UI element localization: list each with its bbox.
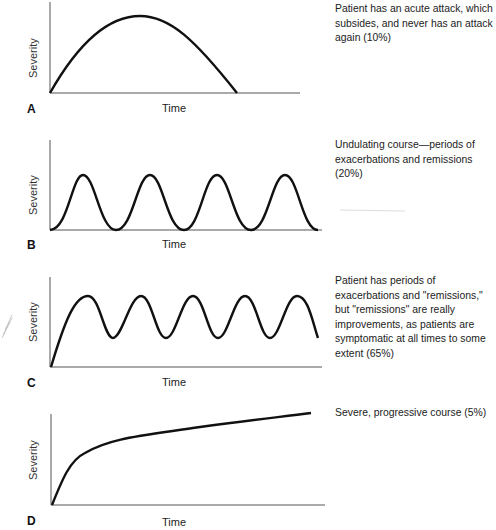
x-axis-label: Time — [162, 238, 186, 250]
chart-b — [50, 140, 322, 230]
chart-a — [50, 2, 300, 93]
panel-letter: D — [27, 514, 36, 528]
y-axis-label: Severity — [27, 302, 39, 342]
panel-letter: B — [27, 238, 36, 252]
x-axis-label: Time — [162, 376, 186, 388]
y-axis-label: Severity — [27, 440, 39, 480]
curve-d — [52, 413, 311, 505]
chart-d — [51, 413, 325, 505]
scan-artifact — [340, 210, 405, 211]
margin-mark — [2, 315, 12, 338]
panel-letter: C — [27, 376, 36, 390]
panel-description: Patient has an acute attack, which subsi… — [335, 2, 495, 46]
panel-description: Severe, progressive course (5%) — [335, 406, 495, 421]
panel-description: Patient has periods of exacerbations and… — [335, 274, 495, 361]
x-axis-label: Time — [162, 102, 186, 114]
x-axis-label: Time — [162, 516, 186, 528]
y-axis-label: Severity — [27, 38, 39, 78]
panel-letter: A — [27, 102, 36, 116]
y-axis-label: Severity — [27, 175, 39, 215]
curve-c — [51, 296, 318, 367]
panel-description: Undulating course—periods of exacerbatio… — [335, 138, 495, 182]
curve-a — [50, 16, 237, 93]
disease-course-diagrams — [0, 0, 496, 530]
curve-b — [50, 175, 318, 230]
chart-c — [50, 277, 322, 367]
